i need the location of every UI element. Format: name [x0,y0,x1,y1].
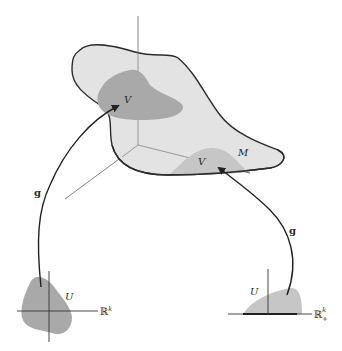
label-rk: ℝk [100,305,112,317]
label-manifold-m: M [237,147,249,158]
map-g-arrow-interior [38,106,118,287]
label-u-right: U [250,286,259,297]
label-g-left: g [34,187,41,198]
map-g-arrow-boundary [219,168,293,295]
label-rk-plus: ℝk+ [314,306,328,323]
domain-u-interior [22,277,72,334]
label-g-right: g [289,225,296,236]
label-u-left: U [65,291,74,302]
manifold-diagram: V V M g g U U ℝk ℝk+ [0,0,342,351]
